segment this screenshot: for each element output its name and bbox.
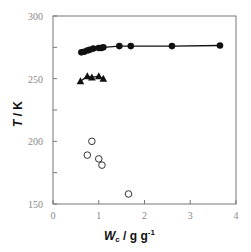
data-point xyxy=(84,152,91,159)
chart: 01234150200250300 Wc / g g-1 T / K xyxy=(0,0,251,252)
x-tick-label: 2 xyxy=(142,210,147,221)
plot-frame xyxy=(53,16,236,204)
x-tick-label: 4 xyxy=(234,210,239,221)
data-point xyxy=(95,156,102,163)
data-point xyxy=(116,43,123,50)
data-point xyxy=(77,77,85,84)
data-point xyxy=(127,43,134,50)
y-tick-label: 150 xyxy=(28,199,43,210)
x-axis-title: Wc / g g-1 xyxy=(104,228,155,244)
y-tick-label: 250 xyxy=(28,74,43,85)
data-series xyxy=(77,42,224,197)
data-point xyxy=(99,162,106,169)
data-point xyxy=(89,138,96,145)
axis-ticks xyxy=(53,16,236,204)
series-open-circles xyxy=(84,138,132,197)
data-point xyxy=(95,72,103,79)
data-point xyxy=(217,42,224,49)
axis-tick-labels: 01234150200250300 xyxy=(28,11,239,221)
data-point xyxy=(100,44,107,51)
y-tick-label: 200 xyxy=(28,136,43,147)
x-tick-label: 3 xyxy=(188,210,193,221)
y-tick-label: 300 xyxy=(28,11,43,22)
series-filled-triangles xyxy=(77,72,107,84)
x-tick-label: 1 xyxy=(96,210,101,221)
data-point xyxy=(125,191,132,198)
series-filled-circles xyxy=(78,42,223,55)
y-axis-title: T / K xyxy=(11,101,25,127)
data-point xyxy=(169,43,176,50)
x-tick-label: 0 xyxy=(51,210,56,221)
